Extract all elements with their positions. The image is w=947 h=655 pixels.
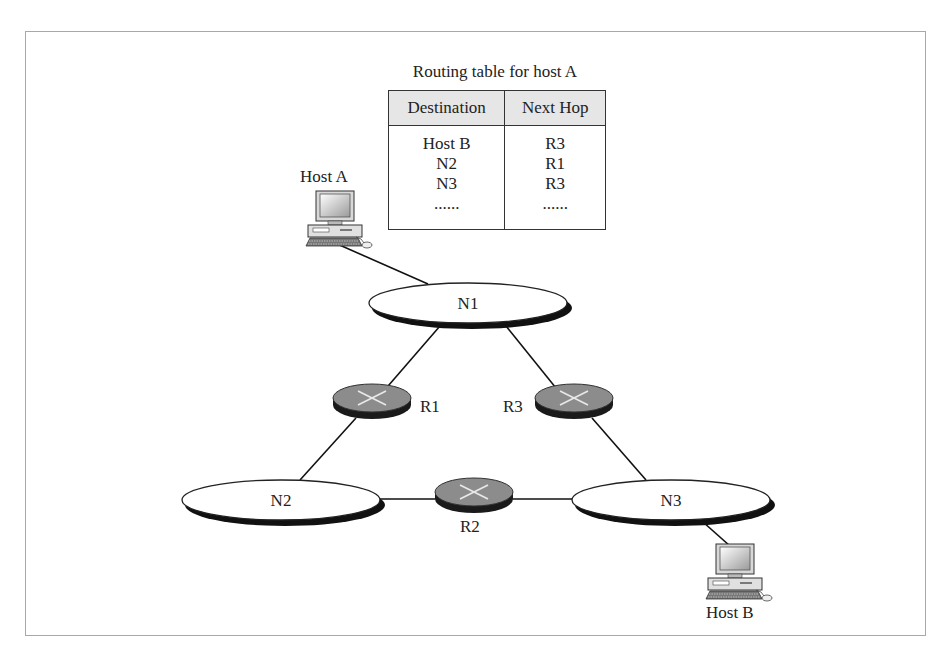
host-label-b: Host B [706, 603, 754, 622]
host-b: Host B [706, 544, 772, 622]
network-n1: N1 [369, 283, 572, 329]
network-label-n3: N3 [661, 491, 682, 510]
link-n1-r1 [382, 326, 440, 393]
desktop-computer-icon [306, 191, 372, 248]
link-r1-n2 [300, 418, 356, 480]
link-n1-r3 [506, 326, 560, 393]
host-a: Host A [300, 167, 372, 248]
network-n3: N3 [572, 480, 775, 526]
host-label-a: Host A [300, 167, 348, 186]
router-r2: R2 [435, 478, 513, 536]
router-r1: R1 [333, 384, 440, 419]
network-diagram: N1 N2 N3 R1 R3 R2 Host A Host B [0, 0, 947, 655]
network-n2: N2 [182, 480, 385, 526]
router-label-r1: R1 [420, 397, 440, 416]
desktop-computer-icon [706, 544, 772, 601]
router-label-r3: R3 [503, 397, 523, 416]
network-label-n1: N1 [458, 294, 479, 313]
router-label-r2: R2 [460, 517, 480, 536]
link-r3-n3 [592, 418, 646, 480]
router-icon [535, 384, 613, 419]
router-icon [333, 384, 411, 419]
router-icon [435, 478, 513, 513]
network-label-n2: N2 [271, 491, 292, 510]
router-r3: R3 [503, 384, 613, 419]
link-hosta-n1 [335, 243, 428, 284]
link-n3-hostb [703, 522, 730, 546]
